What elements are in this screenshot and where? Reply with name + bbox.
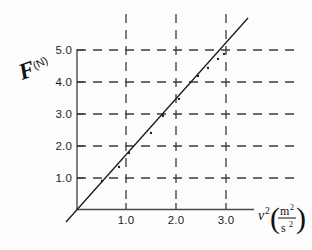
x-axis-label: v 2 ( m 2 s 2 ) [258, 201, 306, 235]
data-point [207, 67, 209, 69]
y-tick-label-2: 2.0 [55, 140, 72, 152]
x-tick-label-1: 1.0 [118, 214, 135, 226]
y-axis-ticks [77, 50, 84, 178]
data-point [150, 132, 152, 134]
y-tick-label-5: 5.0 [55, 44, 72, 56]
data-point [162, 115, 164, 117]
chart-plot-area: 5.0 4.0 3.0 2.0 1.0 1.0 2.0 3.0 [0, 0, 312, 250]
y-axis-label: F (N) [14, 50, 53, 85]
axes [76, 49, 254, 210]
x-axis-unit-denominator: s [281, 221, 286, 235]
y-tick-label-3: 3.0 [55, 108, 72, 120]
x-axis-unit-numerator-exponent: 2 [290, 203, 294, 212]
vertical-gridlines [126, 14, 226, 202]
horizontal-gridlines [77, 50, 297, 178]
data-point [217, 58, 219, 60]
data-point [118, 166, 120, 168]
x-axis-label-symbol: v [258, 208, 265, 223]
x-tick-label-3: 3.0 [218, 214, 235, 226]
x-tick-label-2: 2.0 [168, 214, 185, 226]
data-point [128, 152, 130, 154]
y-tick-label-1: 1.0 [55, 172, 72, 184]
x-axis-unit-numerator: m [280, 204, 290, 218]
x-axis-unit-denominator-exponent: 2 [289, 220, 293, 229]
x-axis-tick-labels: 1.0 2.0 3.0 [118, 214, 235, 226]
y-tick-label-4: 4.0 [55, 76, 72, 88]
x-axis-label-close-paren: ) [296, 201, 306, 235]
data-point [178, 98, 180, 100]
data-point [197, 75, 199, 77]
data-point [223, 53, 225, 55]
best-fit-line [66, 18, 248, 222]
x-axis-ticks [126, 203, 226, 209]
y-axis-tick-labels: 5.0 4.0 3.0 2.0 1.0 [55, 44, 72, 184]
force-vs-velocity-squared-chart: 5.0 4.0 3.0 2.0 1.0 1.0 2.0 3.0 [0, 0, 312, 250]
data-point [101, 180, 103, 182]
